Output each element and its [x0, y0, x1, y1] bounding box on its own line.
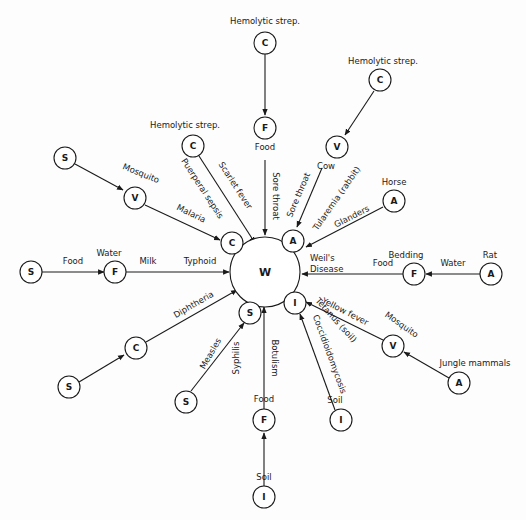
diagram-canvas: WCFCVCAACSVSFAFIVAISSCSFI Sore throatSor… [0, 0, 526, 520]
node-letter: A [290, 236, 297, 246]
node-i_near: I [284, 292, 306, 314]
label-weils-line: Disease [310, 264, 343, 274]
node-letter: F [411, 269, 417, 279]
node-i_bot: I [253, 486, 275, 508]
label-weils-line: Weil's [310, 253, 335, 263]
node-letter: F [112, 267, 118, 277]
node-s_mal: S [54, 147, 76, 169]
node-a_near: A [282, 230, 304, 252]
node-f_bed: F [403, 263, 425, 285]
node-f_bot: F [253, 409, 275, 431]
node-v_mal: V [124, 187, 146, 209]
node-c_diph: C [125, 337, 147, 359]
node-label: Horse [382, 177, 407, 187]
label-syphilis: Syphilis [231, 341, 241, 374]
edge-arrow-s_diph-c_diph [79, 355, 124, 382]
edge-label: Typhoid [183, 256, 217, 266]
node-c_tr: C [369, 69, 391, 91]
edge-arrow-c_diph-W [146, 290, 237, 342]
edge-label: Botulism [270, 339, 280, 376]
node-letter: C [133, 343, 140, 353]
edge-label: Water [440, 258, 466, 268]
node-letter: C [262, 38, 269, 48]
node-letter: A [456, 378, 463, 388]
node-f_top: F [254, 117, 276, 139]
node-label: Rat [483, 250, 498, 260]
node-a_horse: A [383, 190, 405, 212]
node-s_diph: S [58, 376, 80, 398]
node-letter: C [229, 238, 236, 248]
node-c_top: C [254, 32, 276, 54]
node-c_near: C [221, 232, 243, 254]
node-label: Food [254, 394, 274, 404]
node-letter: S [28, 267, 34, 277]
node-letter: F [261, 415, 267, 425]
node-letter: I [293, 298, 296, 308]
node-label: Jungle mammals [438, 358, 511, 368]
edge-label: Scarlet fever [217, 160, 255, 211]
node-letter: A [488, 269, 495, 279]
node-s_food: S [20, 261, 42, 283]
node-v_cow: V [326, 136, 348, 158]
node-label: Cow [317, 161, 335, 171]
node-label: Food [255, 142, 275, 152]
node-letter: A [391, 196, 398, 206]
node-letter: C [190, 141, 197, 151]
edge-label: Sore throat [271, 172, 281, 220]
node-letter: S [62, 153, 68, 163]
node-letter: V [390, 341, 397, 351]
node-letter: V [132, 193, 139, 203]
node-label: Soil [256, 472, 271, 482]
edge-arrow-s_mal-v_mal [75, 164, 123, 190]
node-label: Hemolytic strep. [150, 120, 220, 130]
node-letter: I [339, 415, 342, 425]
node-label: Soil [327, 395, 342, 405]
node-label: Hemolytic strep. [348, 56, 418, 66]
node-letter: S [66, 382, 72, 392]
edge-label: Milk [140, 256, 157, 266]
node-letter: F [262, 123, 268, 133]
node-label: Hemolytic strep. [230, 16, 300, 26]
transmission-diagram: WCFCVCAACSVSFAFIVAISSCSFI Sore throatSor… [0, 0, 526, 520]
node-a_jungle: A [448, 372, 470, 394]
node-f_water: F [104, 261, 126, 283]
node-letter: C [377, 75, 384, 85]
edge-label: Food [63, 256, 83, 266]
node-label: Bedding [389, 250, 424, 260]
node-letter: I [262, 492, 265, 502]
node-a_rat: A [480, 263, 502, 285]
node-v_yf: V [382, 335, 404, 357]
node-letter: V [334, 142, 341, 152]
node-label: Water [96, 248, 122, 258]
node-c_tl: C [182, 135, 204, 157]
edge-arrow-c_tr-v_cow [345, 91, 374, 135]
node-i_soil_r: I [330, 409, 352, 431]
node-letter: S [183, 397, 189, 407]
edge-label: Sore throat [284, 170, 312, 218]
node-letter: S [247, 308, 253, 318]
node-label: Mosquito [383, 309, 420, 339]
node-label: Mosquito [121, 161, 161, 185]
center-node-letter: W [259, 266, 271, 279]
node-s_meas: S [175, 391, 197, 413]
node-s_near: S [239, 302, 261, 324]
